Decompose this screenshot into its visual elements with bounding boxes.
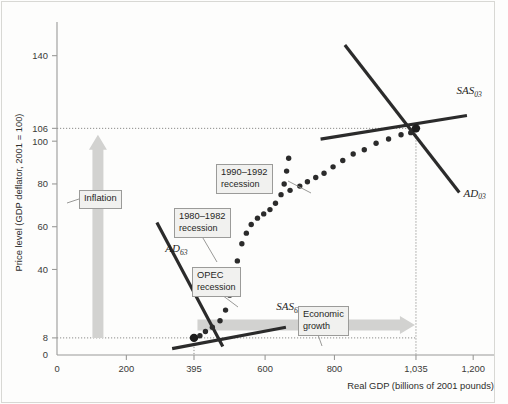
curve-label-sub: 03 xyxy=(474,90,482,99)
callout-rec90-line2: recession xyxy=(221,179,268,191)
callout-economic-growth: Economic growth xyxy=(298,306,349,336)
y-tick-label-100: 100 xyxy=(32,136,48,147)
curve-label-sub: 63 xyxy=(180,248,188,257)
callout-inflation-line1: Inflation xyxy=(84,193,117,203)
data-point xyxy=(284,168,289,173)
chart-canvas: 1401061008060408002003956008001,0351,200… xyxy=(0,0,508,404)
data-point xyxy=(223,307,228,312)
data-point xyxy=(217,318,222,323)
callout-inflation: Inflation xyxy=(79,190,122,209)
curve-label-main: AD xyxy=(462,187,478,199)
data-point xyxy=(340,158,345,163)
data-point xyxy=(305,179,310,184)
data-point xyxy=(350,151,355,156)
data-point xyxy=(330,164,335,169)
callout-opec-recession: OPEC recession xyxy=(192,267,241,297)
callout-recession-1980-1982: 1980–1982 recession xyxy=(174,208,231,238)
data-point xyxy=(239,241,244,246)
page-frame xyxy=(2,2,495,403)
x-tick-label-1,035: 1,035 xyxy=(404,363,427,374)
callout-leader-line xyxy=(67,199,79,203)
y-tick-label-40: 40 xyxy=(38,264,48,275)
data-point xyxy=(321,171,326,176)
data-point xyxy=(281,181,286,186)
y-tick-label-8: 8 xyxy=(43,332,48,343)
callout-growth-line2: growth xyxy=(303,321,344,333)
curve-label-main: SAS xyxy=(457,84,475,96)
data-point xyxy=(373,141,378,146)
equilibrium-dot xyxy=(190,334,198,342)
y-tick-label-80: 80 xyxy=(38,178,48,189)
data-point xyxy=(244,230,249,235)
callout-rec80-line1: 1980–1982 xyxy=(179,211,226,221)
curve-label-main: SAS xyxy=(276,300,294,312)
curve-label-SAS03: SAS03 xyxy=(457,84,483,99)
callout-growth-line1: Economic xyxy=(303,309,344,319)
data-point xyxy=(203,329,208,334)
x-tick-label-0: 0 xyxy=(54,363,59,374)
y-tick-label-60: 60 xyxy=(38,221,48,232)
data-point xyxy=(235,258,240,263)
data-point xyxy=(362,147,367,152)
data-point xyxy=(287,188,292,193)
curve-label-AD63: AD63 xyxy=(164,242,187,257)
curve-SAS03 xyxy=(321,116,467,140)
ad-as-scatter-plot: 1401061008060408002003956008001,0351,200… xyxy=(0,0,508,404)
x-tick-label-800: 800 xyxy=(327,363,343,374)
x-tick-label-1,200: 1,200 xyxy=(461,363,484,374)
curve-label-main: AD xyxy=(164,242,180,254)
y-tick-label-106: 106 xyxy=(32,123,48,134)
data-point xyxy=(313,175,318,180)
x-tick-label-200: 200 xyxy=(119,363,135,374)
equilibrium-dot xyxy=(412,124,420,132)
y-tick-label-140: 140 xyxy=(32,50,48,61)
data-point xyxy=(286,156,291,161)
data-point xyxy=(278,192,283,197)
data-point xyxy=(273,200,278,205)
callout-opec-line2: recession xyxy=(197,282,236,294)
curve-label-sub: 03 xyxy=(478,192,486,201)
curve-label-AD03: AD03 xyxy=(462,187,485,202)
x-tick-label-395: 395 xyxy=(186,363,202,374)
callout-rec80-line2: recession xyxy=(179,223,226,235)
data-point xyxy=(255,215,260,220)
x-tick-label-600: 600 xyxy=(257,363,273,374)
y-tick-label-0: 0 xyxy=(43,349,48,360)
data-point xyxy=(398,132,403,137)
data-point xyxy=(249,222,254,227)
x-axis-title: Real GDP (billions of 2001 pounds) xyxy=(347,380,494,391)
inflation-arrow-icon xyxy=(89,135,107,338)
data-point xyxy=(210,325,215,330)
callout-recession-1990-1992: 1990–1992 recession xyxy=(216,164,273,194)
data-point xyxy=(261,211,266,216)
data-point xyxy=(267,207,272,212)
callout-rec90-line1: 1990–1992 xyxy=(221,167,268,177)
callout-opec-line1: OPEC xyxy=(197,270,223,280)
data-point xyxy=(386,136,391,141)
y-axis-title: Price level (GDP deflator, 2001 = 100) xyxy=(13,114,24,272)
